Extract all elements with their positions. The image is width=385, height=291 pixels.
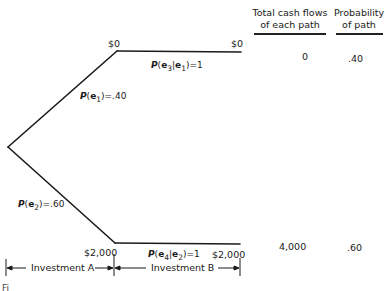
arrow-right-icon — [108, 266, 113, 270]
header-total-cash-flows: Total cash flows of each path — [252, 7, 328, 31]
node-lower-end-value: $2,000 — [212, 250, 245, 260]
header-rule-total — [254, 33, 326, 35]
period-a-label: Investment A — [30, 263, 95, 273]
node-lower-start-value: $2,000 — [84, 248, 117, 258]
prob-e3-given-e1-label: P(e3|e1)=1 — [151, 61, 203, 72]
arrow-right-icon — [234, 266, 239, 270]
prob-e2-label: P(e2)=.60 — [18, 200, 64, 211]
header-probability: Probability of path — [334, 7, 384, 31]
figure-caption-partial: Fi — [2, 283, 9, 291]
header-rule-probability — [336, 33, 383, 35]
row-2-total: 4,000 — [279, 241, 306, 252]
node-upper-start-value: $0 — [108, 39, 120, 49]
row-1-total: 0 — [302, 51, 308, 62]
arrow-left-icon — [115, 266, 120, 270]
row-2-probability: .60 — [347, 242, 362, 253]
row-1-probability: .40 — [348, 53, 363, 64]
prob-e1-label: P(e1)=.40 — [80, 92, 126, 103]
node-upper-end-value: $0 — [231, 39, 243, 49]
branch-e3 — [117, 51, 241, 52]
branch-e2 — [8, 147, 115, 243]
prob-e4-given-e2-label: P(e4|e2)=1 — [148, 250, 200, 261]
period-b-label: Investment B — [150, 263, 215, 273]
arrow-left-icon — [7, 266, 12, 270]
decision-tree-lines — [0, 0, 385, 291]
branch-e4 — [115, 243, 240, 244]
